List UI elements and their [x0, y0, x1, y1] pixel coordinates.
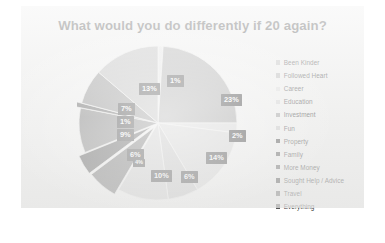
legend-item[interactable]: Sought Help / Advice — [276, 174, 364, 187]
legend-color-swatch — [276, 178, 280, 182]
legend-item[interactable]: Career — [276, 82, 364, 95]
legend-item[interactable]: Travel — [276, 187, 364, 200]
legend-color-swatch — [276, 191, 280, 195]
legend-item[interactable]: Family — [276, 148, 364, 161]
legend-item-label: Career — [284, 85, 304, 92]
pie-slice-value-label: 4% — [133, 159, 145, 167]
legend-color-swatch — [276, 139, 280, 143]
legend-item[interactable]: Education — [276, 95, 364, 108]
pie-slice-value-label: 2% — [229, 130, 246, 142]
legend-item-label: Travel — [284, 190, 302, 197]
pie-slice-value-label: 10% — [151, 170, 172, 182]
legend-item-label: Everything — [284, 203, 315, 210]
chart-container: What would you do differently if 20 agai… — [21, 6, 364, 208]
legend-item-label: Followed Heart — [284, 72, 328, 79]
legend-item[interactable]: Followed Heart — [276, 69, 364, 82]
chart-legend: Been KinderFollowed HeartCareerEducation… — [276, 56, 364, 213]
legend-color-swatch — [276, 204, 280, 208]
pie-slice-value-label: 7% — [118, 103, 135, 115]
legend-color-swatch — [276, 126, 280, 130]
legend-item[interactable]: Fun — [276, 121, 364, 134]
pie-slice-value-label: 6% — [181, 171, 198, 183]
legend-color-swatch — [276, 165, 280, 169]
legend-item-label: Investment — [284, 111, 316, 118]
pie-slice-value-label: 1% — [117, 116, 134, 128]
chart-title: What would you do differently if 20 agai… — [21, 18, 364, 33]
legend-item-label: Been Kinder — [284, 59, 320, 66]
legend-color-swatch — [276, 100, 280, 104]
legend-item[interactable]: Everything — [276, 200, 364, 213]
pie-chart: 1%23%2%14%6%10%6%4%9%1%7%13% — [77, 44, 239, 202]
legend-color-swatch — [276, 73, 280, 77]
pie-slice-value-label: 1% — [167, 75, 184, 87]
pie-slice-value-label: 14% — [206, 152, 227, 164]
legend-color-swatch — [276, 87, 280, 91]
pie-slice-value-label: 13% — [139, 83, 160, 95]
legend-color-swatch — [276, 113, 280, 117]
legend-item[interactable]: More Money — [276, 161, 364, 174]
legend-item-label: Family — [284, 151, 303, 158]
legend-item-label: Property — [284, 138, 309, 145]
legend-color-swatch — [276, 60, 280, 64]
legend-item-label: Fun — [284, 125, 295, 132]
legend-item[interactable]: Investment — [276, 108, 364, 121]
legend-item-label: More Money — [284, 164, 320, 171]
pie-slice-value-label: 9% — [117, 129, 134, 141]
legend-item-label: Sought Help / Advice — [284, 177, 344, 184]
legend-color-swatch — [276, 152, 280, 156]
legend-item[interactable]: Property — [276, 135, 364, 148]
pie-slice-value-label: 23% — [221, 94, 242, 106]
legend-item[interactable]: Been Kinder — [276, 56, 364, 69]
legend-item-label: Education — [284, 98, 313, 105]
